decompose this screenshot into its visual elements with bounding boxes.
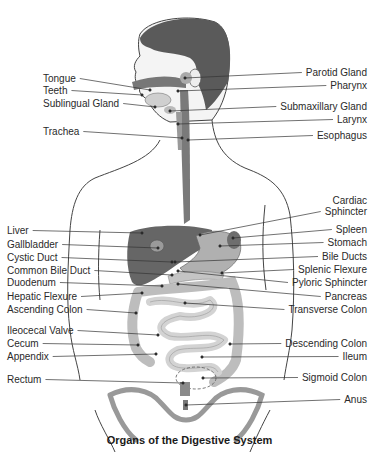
pointer-anus bbox=[185, 404, 187, 406]
label-pharynx: Pharynx bbox=[330, 80, 367, 91]
label-trachea: Trachea bbox=[43, 126, 79, 137]
digestive-system-diagram: TongueTeethSublingual GlandTracheaLiverG… bbox=[0, 0, 379, 456]
label-hepatic-flexure: Hepatic Flexure bbox=[7, 291, 77, 302]
pointer-ileum bbox=[201, 356, 203, 358]
label-splenic-flexure: Splenic Flexure bbox=[298, 264, 367, 275]
label-rectum: Rectum bbox=[7, 374, 41, 385]
pointer-splenic-flexure bbox=[221, 272, 223, 274]
label-cecum: Cecum bbox=[7, 338, 39, 349]
leader-spleen bbox=[233, 230, 332, 239]
pointer-common-bile-duct bbox=[171, 274, 173, 276]
pointer-trachea bbox=[181, 137, 183, 139]
label-sigmoid-colon: Sigmoid Colon bbox=[302, 372, 367, 383]
label-pyloric-sphincter: Pyloric Sphincter bbox=[292, 277, 367, 288]
label-cystic-duct: Cystic Duct bbox=[7, 252, 58, 263]
leader-teeth bbox=[71, 91, 142, 96]
pointer-tongue bbox=[149, 89, 151, 91]
label-sublingual-gland: Sublingual Gland bbox=[43, 98, 119, 109]
label-bile-ducts: Bile Ducts bbox=[322, 251, 367, 262]
diagram-caption: Organs of the Digestive System bbox=[0, 434, 379, 446]
pointer-liver bbox=[141, 232, 143, 234]
label-appendix: Appendix bbox=[7, 351, 49, 362]
pointer-gallbladder bbox=[157, 247, 159, 249]
leader-ileum bbox=[202, 357, 339, 358]
label-tongue: Tongue bbox=[43, 73, 76, 84]
pointer-ascending-colon bbox=[135, 312, 137, 314]
leader-ileocecal-valve bbox=[78, 331, 158, 336]
leader-sigmoid-colon bbox=[203, 378, 298, 379]
label-cardiac-sphincter: CardiacSphincter bbox=[325, 195, 367, 217]
leader-liver bbox=[33, 231, 142, 234]
label-submaxillary-gland: Submaxillary Gland bbox=[280, 101, 367, 112]
leader-rectum bbox=[45, 380, 183, 384]
leader-splenic-flexure bbox=[222, 270, 294, 274]
pointer-sublingual-gland bbox=[154, 106, 156, 108]
pointer-rectum bbox=[182, 382, 184, 384]
label-ileocecal-valve: Ileocecal Valve bbox=[7, 325, 74, 336]
label-common-bile-duct: Common Bile Duct bbox=[7, 265, 90, 276]
gallbladder bbox=[150, 240, 164, 252]
pointer-larynx bbox=[177, 123, 179, 125]
leader-trachea bbox=[83, 132, 182, 139]
label-gallbladder: Gallbladder bbox=[7, 239, 58, 250]
pointer-pyloric-sphincter bbox=[177, 270, 179, 272]
pointer-hepatic-flexure bbox=[141, 292, 143, 294]
pointer-transverse-colon bbox=[184, 302, 186, 304]
pointer-duodenum bbox=[161, 285, 163, 287]
label-descending-colon: Descending Colon bbox=[285, 338, 367, 349]
pointer-submaxillary-gland bbox=[169, 110, 171, 112]
label-stomach: Stomach bbox=[328, 237, 367, 248]
pointer-stomach bbox=[219, 245, 221, 247]
pointer-ileocecal-valve bbox=[157, 334, 159, 336]
label-larynx: Larynx bbox=[337, 114, 367, 125]
leader-descending-colon bbox=[230, 344, 281, 345]
pointer-parotid-gland bbox=[184, 77, 186, 79]
label-ileum: Ileum bbox=[343, 351, 367, 362]
rectum bbox=[180, 382, 190, 396]
pointer-appendix bbox=[155, 353, 157, 355]
label-esophagus: Esophagus bbox=[317, 130, 367, 141]
leader-esophagus bbox=[188, 136, 313, 141]
spleen bbox=[227, 231, 241, 249]
label-transverse-colon: Transverse Colon bbox=[288, 304, 367, 315]
pelvis bbox=[110, 390, 262, 440]
pointer-pharynx bbox=[177, 90, 179, 92]
pointer-sigmoid-colon bbox=[202, 377, 204, 379]
label-pancreas: Pancreas bbox=[325, 291, 367, 302]
leader-cecum bbox=[43, 344, 138, 346]
pointer-teeth bbox=[141, 94, 143, 96]
label-teeth: Teeth bbox=[43, 85, 67, 96]
label-anus: Anus bbox=[344, 394, 367, 405]
pointer-cystic-duct bbox=[171, 261, 173, 263]
label-ascending-colon: Ascending Colon bbox=[7, 304, 83, 315]
pointer-cecum bbox=[137, 344, 139, 346]
pointer-cardiac-sphincter bbox=[199, 234, 201, 236]
label-parotid-gland: Parotid Gland bbox=[306, 67, 367, 78]
label-liver: Liver bbox=[7, 225, 29, 236]
label-spleen: Spleen bbox=[336, 224, 367, 235]
pointer-descending-colon bbox=[229, 343, 231, 345]
pointer-bile-ducts bbox=[174, 261, 176, 263]
leader-cardiac-sphincter bbox=[200, 212, 321, 236]
pointer-spleen bbox=[232, 237, 234, 239]
pointer-esophagus bbox=[187, 139, 189, 141]
label-duodenum: Duodenum bbox=[7, 277, 56, 288]
pointer-pancreas bbox=[177, 283, 179, 285]
